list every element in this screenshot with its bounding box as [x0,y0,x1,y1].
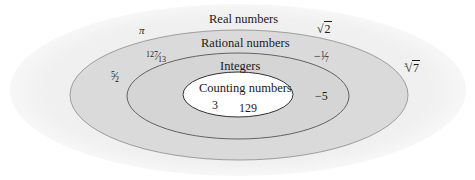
radical-sign-icon: √ [317,22,324,36]
element-5-over-2: 5⁄2 [111,70,119,82]
denominator: 2 [115,75,119,84]
counting-numbers-label: Counting numbers [199,82,292,95]
real-numbers-label: Real numbers [209,13,278,26]
root-index: 3 [404,61,408,69]
minus-sign: − [314,49,321,63]
rational-numbers-label: Rational numbers [201,37,290,50]
integers-label: Integers [220,60,260,73]
radicand: 7 [412,60,420,75]
element-129: 129 [239,102,257,114]
element-3: 3 [212,99,218,111]
element-neg-5: −5 [315,90,328,102]
denominator: 13 [158,55,166,64]
element-sqrt-2: √2 [317,23,332,35]
element-127-over-13: 127⁄13 [146,50,166,62]
element-pi: π [139,25,145,36]
element-cube-root-7: 3√7 [404,62,420,74]
element-neg-1-over-7: −1⁄7 [314,50,329,62]
radicand: 2 [324,21,332,36]
denominator: 7 [325,55,329,64]
